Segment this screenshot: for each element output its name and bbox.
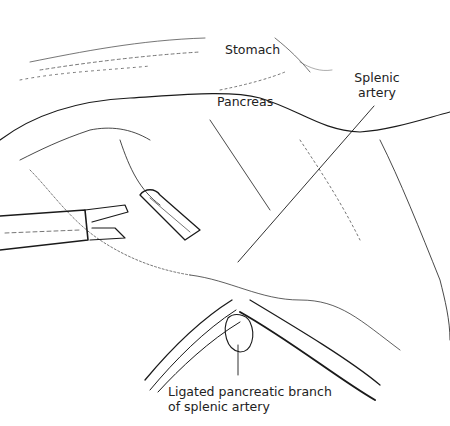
label-splenic-artery: Splenic artery xyxy=(352,70,402,100)
label-splenic-line1: Splenic xyxy=(352,70,402,85)
stomach-outline xyxy=(20,38,332,90)
forceps-instrument xyxy=(0,205,128,250)
label-ligated-line1: Ligated pancreatic branch xyxy=(168,384,332,399)
label-stomach: Stomach xyxy=(225,42,280,57)
surgical-illustration xyxy=(0,0,450,426)
label-splenic-line2: artery xyxy=(352,85,402,100)
label-ligated-branch: Ligated pancreatic branch of splenic art… xyxy=(168,384,332,414)
pancreas-outline xyxy=(0,94,450,350)
label-ligated-line2: of splenic artery xyxy=(168,399,332,414)
label-pancreas: Pancreas xyxy=(217,94,273,109)
ligated-branch xyxy=(145,300,253,392)
splenic-artery-leader xyxy=(238,106,374,262)
clamp-instrument xyxy=(140,190,200,240)
